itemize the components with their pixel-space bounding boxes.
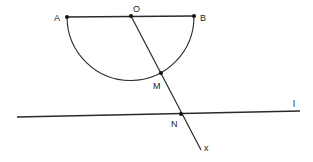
ray-ox xyxy=(131,16,201,150)
semicircle-arc xyxy=(67,16,194,81)
label-o: O xyxy=(133,4,140,14)
point-b xyxy=(192,14,196,18)
label-ray-x: x xyxy=(204,143,209,153)
point-a xyxy=(65,15,69,19)
point-o xyxy=(129,14,133,18)
line-l xyxy=(17,111,300,117)
label-b: B xyxy=(200,13,206,23)
geometry-diagram: A O B M N l x xyxy=(0,0,313,162)
label-a: A xyxy=(54,13,60,23)
label-m: M xyxy=(153,81,161,91)
label-line-l: l xyxy=(293,99,295,109)
point-m xyxy=(159,71,163,75)
point-n xyxy=(179,112,183,116)
label-n: N xyxy=(171,119,178,129)
